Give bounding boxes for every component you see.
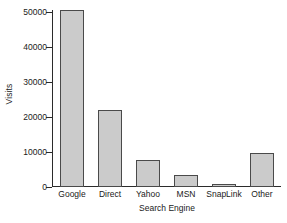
x-axis-tick-label: Direct [99,189,121,200]
bar [212,184,236,188]
y-axis-tick-mark [46,187,52,188]
bar [136,160,160,187]
y-axis-tick-label: 30000 [8,77,50,86]
y-axis-tick-label: 0 [8,182,50,191]
y-axis-tick-label: 40000 [8,42,50,51]
bar [250,153,274,187]
x-axis-tick-label: Yahoo [136,189,160,200]
x-axis-tick-labels: GoogleDirectYahooMSNSnapLinkOther [53,189,281,203]
y-axis-tick-label: 10000 [8,147,50,156]
x-axis-tick-label: Google [58,189,85,200]
bar-chart: Visits 01000020000300004000050000 Google… [0,0,287,223]
x-axis-title: Search Engine [53,203,281,213]
bar [60,10,84,187]
y-axis-tick-label: 50000 [8,7,50,16]
y-axis-tick-labels: 01000020000300004000050000 [8,0,50,223]
plot-area [53,10,281,187]
y-axis-tick-label: 20000 [8,112,50,121]
x-axis-tick-label: SnapLink [206,189,241,200]
x-axis-tick-label: MSN [177,189,196,200]
bar [98,110,122,187]
x-axis-tick-label: Other [251,189,272,200]
bar [174,175,198,187]
